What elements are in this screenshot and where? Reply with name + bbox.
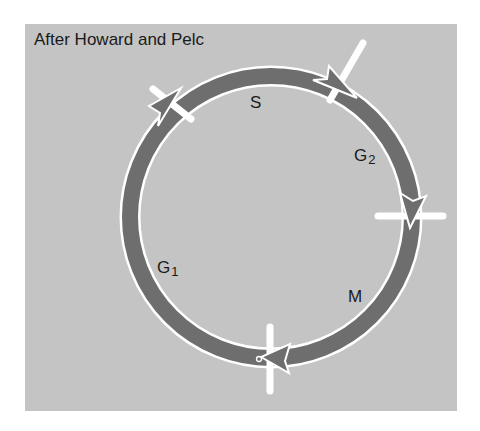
cell-cycle-diagram: [0, 0, 480, 431]
phase-label-m: M: [348, 288, 363, 305]
phase-label-s: S: [250, 94, 262, 111]
phase-label-g2: G2: [354, 147, 375, 164]
phase-label-g1: G1: [157, 259, 178, 276]
cycle-ring: [130, 76, 412, 358]
